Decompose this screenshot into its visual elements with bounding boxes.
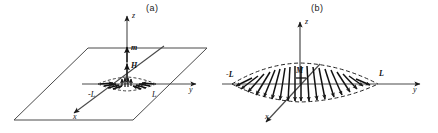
panel-b-dashed-envelope	[232, 63, 378, 102]
panel-b-negative-extent-label: -L	[226, 70, 234, 79]
panel-a-vector-h-label: H	[131, 61, 137, 70]
panel-b-y-axis-label: y	[413, 85, 417, 94]
panel-b-positive-extent-label: L	[379, 69, 384, 78]
panel-a-positive-extent-label: L	[152, 90, 156, 99]
panel-a-vector-m-label: m	[131, 43, 137, 52]
panel-a-y-axis-label: y	[189, 85, 193, 94]
panel-a-x-axis-label: x	[73, 112, 77, 121]
panel-b-z-axis-label: z	[305, 17, 308, 26]
panel-a-negative-extent-label: -L	[88, 90, 95, 99]
figure-root: (a) z y x m H -L L (b) z y x M -L L	[0, 0, 438, 133]
panel-a-z-axis-label: z	[132, 11, 135, 20]
panel-a-graphic	[0, 0, 438, 133]
panel-a-label: (a)	[146, 3, 159, 13]
panel-b-vector-m-label: M	[296, 66, 303, 75]
panel-b-x-axis-label: x	[265, 112, 269, 121]
panel-b-label: (b)	[311, 3, 324, 13]
